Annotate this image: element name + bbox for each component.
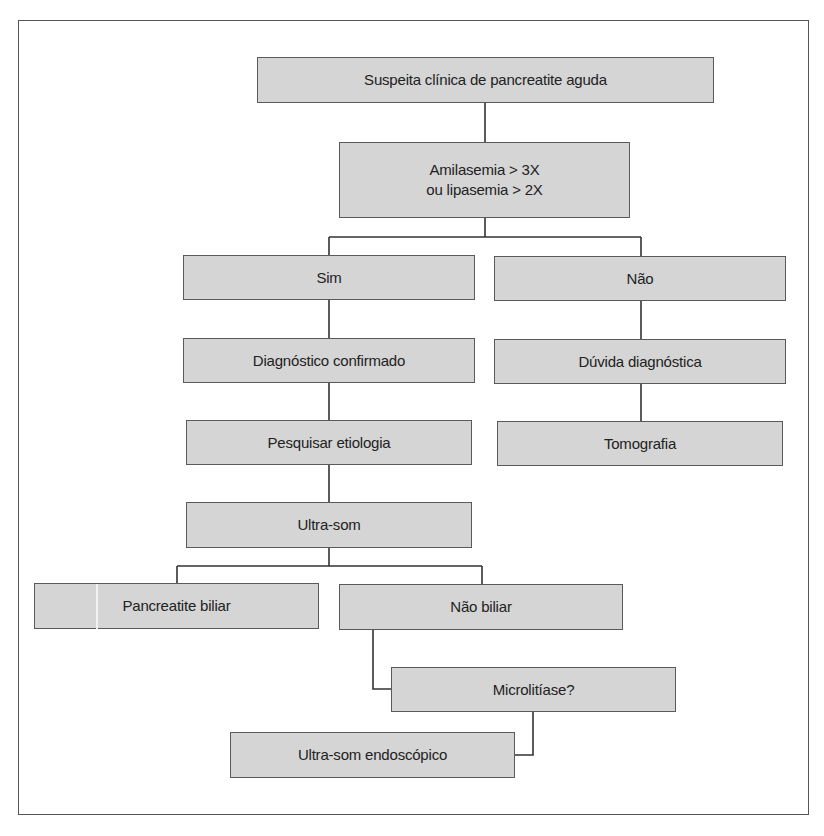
node-label: Pancreatite biliar xyxy=(122,596,230,616)
node-suspeita-clinica: Suspeita clínica de pancreatite aguda xyxy=(257,57,714,103)
node-label: Pesquisar etiologia xyxy=(268,433,391,453)
node-nao: Não xyxy=(494,256,786,301)
node-label: Não xyxy=(627,269,654,289)
node-tomografia: Tomografia xyxy=(497,421,783,466)
node-sim: Sim xyxy=(183,255,475,300)
node-label: Diagnóstico confirmado xyxy=(253,351,405,371)
node-label: Suspeita clínica de pancreatite aguda xyxy=(364,70,607,90)
node-label: Sim xyxy=(316,268,341,288)
node-label-line2: ou lipasemia > 2X xyxy=(426,180,542,200)
node-pesquisar-etiologia: Pesquisar etiologia xyxy=(186,420,472,465)
node-label: Ultra-som endoscópico xyxy=(298,745,447,765)
node-label-line1: Amilasemia > 3X xyxy=(430,160,540,180)
node-label: Tomografia xyxy=(604,434,676,454)
node-label: Microlitíase? xyxy=(493,680,575,700)
scan-seam xyxy=(96,584,98,629)
node-label: Ultra-som xyxy=(297,515,360,535)
node-diagnostico-confirmado: Diagnóstico confirmado xyxy=(183,338,475,383)
node-nao-biliar: Não biliar xyxy=(339,584,623,630)
node-microlitiase: Microlitíase? xyxy=(391,667,676,712)
node-ultra-som: Ultra-som xyxy=(186,502,472,548)
node-label: Dúvida diagnóstica xyxy=(578,352,701,372)
node-ultra-som-endoscopico: Ultra-som endoscópico xyxy=(230,732,515,778)
node-label: Não biliar xyxy=(450,597,511,617)
node-amilasemia-lipasemia: Amilasemia > 3X ou lipasemia > 2X xyxy=(339,142,630,218)
node-duvida-diagnostica: Dúvida diagnóstica xyxy=(494,339,786,384)
node-pancreatite-biliar: Pancreatite biliar xyxy=(34,583,319,629)
